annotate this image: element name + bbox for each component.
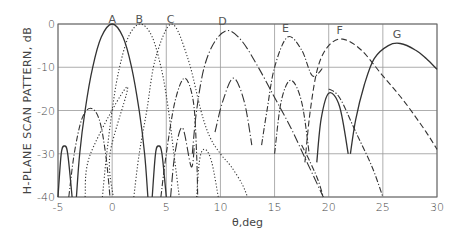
x-tick-label: 20 [322, 201, 336, 214]
x-tick-label: 30 [430, 201, 444, 214]
x-tick-label: 15 [268, 201, 282, 214]
curve-g [317, 43, 437, 162]
y-tick-label: -10 [37, 61, 55, 74]
y-tick-label: -20 [37, 105, 55, 118]
curve-label-f: F [336, 24, 342, 37]
x-tick-labels: -5051015202530 [53, 201, 444, 214]
y-tick-label: 0 [48, 18, 55, 31]
x-tick-label: 5 [163, 201, 170, 214]
curve-label-b: B [135, 13, 143, 26]
y-tick-label: -40 [37, 191, 55, 204]
curve-e [262, 36, 383, 197]
grid-lines [58, 24, 437, 197]
y-tick-labels: 0-10-20-30-40 [37, 18, 55, 204]
curve-label-c: C [167, 13, 175, 26]
x-axis-label: θ,deg [232, 216, 263, 229]
y-axis-label: H-PLANE SCAN PATTERN, dB [21, 27, 34, 195]
curve-c-sidelobes [69, 78, 198, 197]
x-tick-label: 0 [109, 201, 116, 214]
scan-pattern-chart: ABCDEFG -5051015202530 0-10-20-30-40 θ,d… [0, 0, 468, 236]
y-tick-label: -30 [37, 148, 55, 161]
curve-label-a: A [108, 13, 116, 26]
curve-label-d: D [218, 15, 226, 28]
x-tick-label: 10 [213, 201, 227, 214]
curve-label-e: E [282, 22, 289, 35]
curve-d [171, 31, 324, 198]
curve-label-g: G [393, 28, 402, 41]
x-tick-label: 25 [376, 201, 390, 214]
